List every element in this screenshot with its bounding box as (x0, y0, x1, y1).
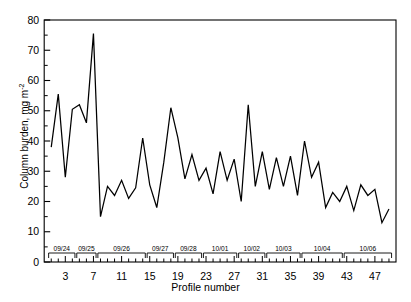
date-bracket-shape (147, 253, 173, 258)
date-bracket-shape (344, 253, 391, 258)
y-tick-label: 30 (28, 165, 40, 177)
x-tick-label: 27 (228, 270, 240, 282)
x-tick-label: 15 (144, 270, 156, 282)
date-bracket-shape (175, 253, 201, 258)
date-bracket-label: 09/28 (180, 245, 197, 252)
date-bracket-label: 10/03 (275, 245, 292, 252)
date-bracket: 09/24 (49, 245, 75, 259)
date-bracket-label: 10/02 (244, 245, 261, 252)
x-tick-label: 11 (116, 270, 127, 282)
x-tick-label: 23 (200, 270, 212, 282)
date-bracket: 09/27 (147, 245, 173, 259)
y-axis-ticks: 01020304050607080 (28, 14, 51, 268)
y-tick-label: 80 (28, 14, 40, 26)
y-tick-label: 40 (28, 135, 40, 147)
date-bracket-shape (203, 253, 236, 258)
date-brackets: 09/2409/2509/2609/2709/2810/0110/0210/03… (49, 245, 392, 259)
x-tick-label: 3 (62, 270, 68, 282)
x-tick-label: 43 (341, 270, 353, 282)
date-bracket-label: 09/26 (113, 245, 130, 252)
date-bracket: 09/25 (77, 245, 96, 259)
date-bracket: 10/06 (344, 245, 391, 259)
date-bracket-label: 09/25 (78, 245, 95, 252)
date-bracket-shape (302, 253, 342, 258)
y-tick-label: 70 (28, 44, 40, 56)
date-bracket: 09/26 (98, 245, 145, 259)
series-line (51, 34, 389, 223)
date-bracket: 10/01 (203, 245, 236, 259)
date-bracket: 10/04 (302, 245, 342, 259)
y-tick-label: 20 (28, 195, 40, 207)
date-bracket: 10/02 (239, 245, 265, 259)
date-bracket-shape (267, 253, 300, 258)
date-bracket-label: 10/01 (212, 245, 229, 252)
y-tick-label: 50 (28, 104, 40, 116)
x-tick-label: 7 (91, 270, 97, 282)
x-axis-ticks: 3711151923273135394347 (51, 256, 389, 282)
date-bracket-shape (49, 253, 75, 258)
line-chart-plot: 01020304050607080 3711151923273135394347… (0, 0, 411, 302)
date-bracket: 09/28 (175, 245, 201, 259)
date-bracket: 10/03 (267, 245, 300, 259)
x-tick-label: 39 (313, 270, 325, 282)
date-bracket-shape (239, 253, 265, 258)
date-bracket-label: 10/06 (360, 245, 377, 252)
date-bracket-label: 09/27 (152, 245, 169, 252)
date-bracket-label: 10/04 (314, 245, 331, 252)
y-tick-label: 0 (33, 256, 39, 268)
y-tick-label: 10 (28, 225, 40, 237)
chart-figure: Column burden, mg m-2 Profile number 010… (0, 0, 411, 302)
date-bracket-label: 09/24 (54, 245, 71, 252)
x-tick-label: 19 (172, 270, 184, 282)
x-tick-label: 35 (285, 270, 297, 282)
y-tick-label: 60 (28, 74, 40, 86)
x-tick-label: 47 (369, 270, 381, 282)
data-series-line (51, 34, 389, 223)
x-tick-label: 31 (256, 270, 268, 282)
